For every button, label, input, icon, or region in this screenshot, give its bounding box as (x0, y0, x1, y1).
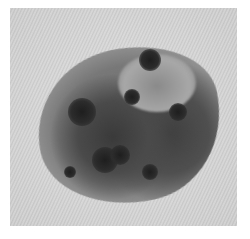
dark-globule (139, 49, 161, 71)
lesion-photo (10, 8, 237, 226)
dark-globule (64, 166, 76, 178)
lesion-body (23, 30, 236, 220)
dark-globule (169, 103, 187, 121)
dark-globule (110, 145, 130, 165)
dark-globule (124, 89, 140, 105)
dark-globule (142, 164, 158, 180)
dark-globule (68, 98, 96, 126)
